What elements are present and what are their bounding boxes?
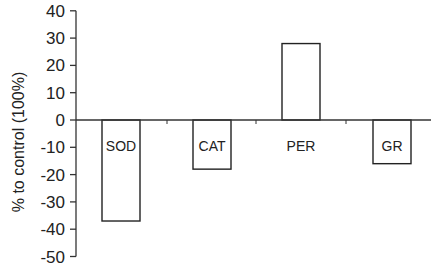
y-axis-label: % to control (100%) [10,72,27,213]
category-label: GR [382,138,403,154]
y-tick-label: 30 [46,29,65,48]
y-tick-label: -50 [40,248,65,267]
bar-per [282,44,320,120]
bar-sod [102,120,140,221]
category-label: SOD [106,138,136,154]
y-tick-label: -30 [40,193,65,212]
bar-chart: 403020100-10-20-30-40-50 SODCATPERGR % t… [0,0,431,279]
y-tick-label: 10 [46,84,65,103]
y-tick-label: -10 [40,138,65,157]
y-axis: 403020100-10-20-30-40-50 [40,2,76,267]
bars: SODCATPERGR [102,44,411,221]
y-tick-label: 20 [46,56,65,75]
y-tick-label: -40 [40,220,65,239]
category-label: CAT [199,138,226,154]
y-tick-label: 40 [46,2,65,21]
y-tick-label: 0 [56,111,65,130]
category-label: PER [287,138,316,154]
y-tick-label: -20 [40,166,65,185]
